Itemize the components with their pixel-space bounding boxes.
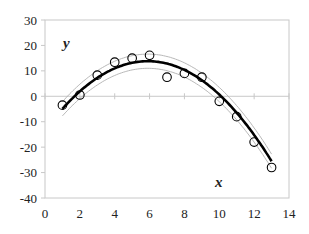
y-tick-label: -30 (20, 165, 37, 180)
y-tick-label: -40 (20, 191, 37, 206)
x-tick-label: 10 (213, 206, 226, 221)
x-tick-label: 4 (111, 206, 118, 221)
fit-line (62, 61, 271, 161)
data-point-marker (145, 51, 154, 60)
y-tick-label: 30 (24, 13, 37, 28)
x-axis-ticks: 02468101214 (42, 93, 296, 221)
data-point-marker (163, 73, 172, 82)
y-tick-label: 10 (24, 63, 37, 78)
upper-band-line (62, 54, 271, 154)
chart: 3020100-10-20-30-40 02468101214 y x (0, 0, 309, 234)
x-tick-label: 14 (283, 206, 297, 221)
y-tick-label: -20 (20, 140, 37, 155)
y-axis-ticks: 3020100-10-20-30-40 (20, 13, 45, 206)
confidence-bands (62, 54, 271, 168)
data-points (58, 51, 276, 172)
y-tick-label: -10 (20, 114, 37, 129)
x-tick-label: 6 (146, 206, 153, 221)
x-axis-label: x (214, 174, 223, 190)
y-tick-label: 0 (31, 89, 38, 104)
y-tick-label: 20 (24, 38, 37, 53)
fit-curve (62, 61, 271, 161)
data-point-marker (128, 54, 137, 63)
x-tick-label: 2 (77, 206, 84, 221)
plot-frame (45, 20, 289, 198)
x-tick-label: 0 (42, 206, 49, 221)
x-tick-label: 12 (248, 206, 261, 221)
plot-border (45, 20, 289, 198)
y-axis-label: y (61, 35, 70, 51)
x-tick-label: 8 (181, 206, 188, 221)
